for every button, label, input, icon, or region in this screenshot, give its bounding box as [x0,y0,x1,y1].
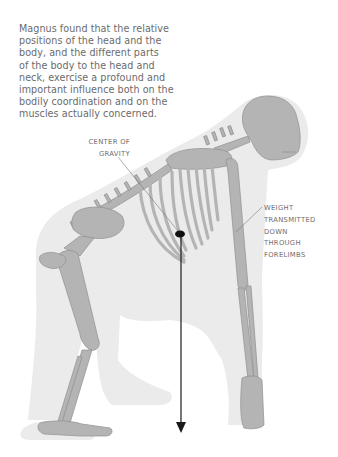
label-line: FORELIMBS [264,250,338,262]
label-line: THROUGH [264,238,338,250]
center-of-gravity-dot [175,231,185,238]
weight-transmitted-label: WEIGHT TRANSMITTED DOWN THROUGH FORELIMB… [264,203,338,262]
label-line: GRAVITY [70,149,130,161]
label-line: TRANSMITTED [264,215,338,227]
pelvis [72,207,124,238]
label-line: DOWN [264,227,338,239]
foot [38,421,112,436]
center-of-gravity-label: CENTER OF GRAVITY [70,137,130,161]
label-line: WEIGHT [264,203,338,215]
gravity-arrow-head [176,422,186,433]
label-line: CENTER OF [70,137,130,149]
hand [241,376,264,429]
